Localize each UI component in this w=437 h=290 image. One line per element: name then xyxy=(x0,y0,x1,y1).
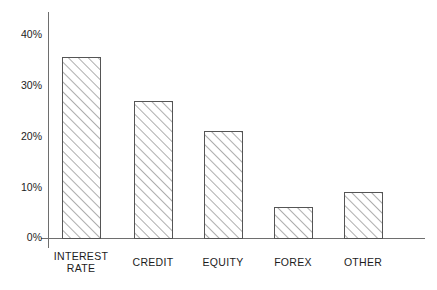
bar-interest-rate[interactable] xyxy=(63,58,101,239)
chart-canvas: 40% 30% 20% 10% 0% INTEREST RATE CREDIT … xyxy=(0,0,437,290)
bar-chart-figure: 40% 30% 20% 10% 0% INTEREST RATE CREDIT … xyxy=(0,0,437,290)
bar-credit[interactable] xyxy=(135,101,173,238)
bar-other[interactable] xyxy=(345,193,383,239)
category-label-forex: FOREX xyxy=(274,256,312,268)
y-tick-label-30: 30% xyxy=(21,79,42,91)
bar-forex[interactable] xyxy=(275,208,313,239)
category-label-credit: CREDIT xyxy=(133,256,174,268)
category-label-other: OTHER xyxy=(344,256,382,268)
y-tick-label-20: 20% xyxy=(21,130,42,142)
bar-equity[interactable] xyxy=(205,132,243,239)
category-label-interest-rate-line1: INTEREST xyxy=(54,250,109,262)
y-tick-label-40: 40% xyxy=(21,28,42,40)
category-label-equity: EQUITY xyxy=(203,256,244,268)
y-tick-label-0: 0% xyxy=(27,231,42,243)
y-tick-label-10: 10% xyxy=(21,181,42,193)
category-label-interest-rate-line2: RATE xyxy=(67,262,95,274)
